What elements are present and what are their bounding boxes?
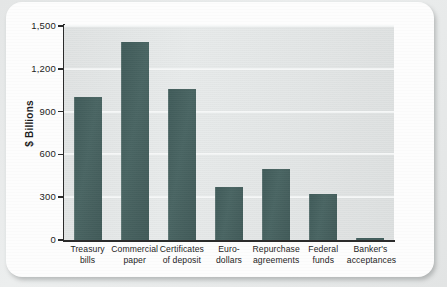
x-axis-label: Federalfunds [300,244,347,265]
x-label-line: Federal [300,244,347,255]
y-tick-label-wrap: 1,200 [0,63,56,75]
x-label-line: dollars [205,255,252,266]
x-label-line: Certificates [158,244,205,255]
x-label-line: Treasury [64,244,111,255]
gridline [64,25,394,27]
y-tick-label: 300 [8,191,56,202]
bar [356,238,384,240]
y-tick-label-wrap: 0 [0,234,56,246]
x-axis-label: Treasurybills [64,244,111,265]
bar-chart: $ Billions 03006009001,2001,500 Treasury… [0,0,447,287]
bar [121,42,149,240]
y-tick-label: 0 [8,234,56,245]
x-label-line: agreements [253,255,300,266]
x-axis-label: Repurchaseagreements [253,244,300,265]
x-label-line: funds [300,255,347,266]
bar [215,187,243,241]
x-axis-label: Euro-dollars [205,244,252,265]
y-tick-label: 1,200 [8,63,56,74]
scanned-page: $ Billions 03006009001,2001,500 Treasury… [0,0,447,287]
y-tick-label: 900 [8,106,56,117]
y-tick-label-wrap: 600 [0,148,56,160]
gridline [64,68,394,70]
x-axis-label: Commercialpaper [111,244,158,265]
x-label-line: Banker's [347,244,394,255]
x-axis-label: Banker'sacceptances [347,244,394,265]
x-label-line: of deposit [158,255,205,266]
plot-area [64,26,394,240]
x-label-line: bills [64,255,111,266]
bar [262,169,290,240]
x-label-line: acceptances [347,255,394,266]
x-axis-line [63,240,395,242]
gridline [64,111,394,113]
y-tick-label-wrap: 900 [0,106,56,118]
bar [309,194,337,240]
x-axis-label: Certificatesof deposit [158,244,205,265]
bar [168,89,196,240]
x-label-line: Euro- [205,244,252,255]
x-label-line: Commercial [111,244,158,255]
y-tick-label-wrap: 1,500 [0,20,56,32]
gridline [64,153,394,155]
x-label-line: paper [111,255,158,266]
bar [74,97,102,240]
y-tick-label: 1,500 [8,20,56,31]
y-tick-label: 600 [8,148,56,159]
y-tick-label-wrap: 300 [0,191,56,203]
x-label-line: Repurchase [253,244,300,255]
